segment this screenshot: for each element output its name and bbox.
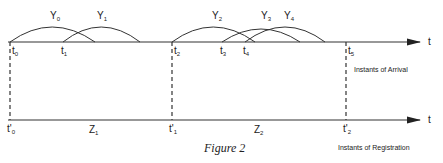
- tick-t0-prime: t'0: [7, 123, 16, 135]
- tick-t3: t3: [220, 45, 227, 57]
- tick-t1: t1: [61, 45, 68, 57]
- label-y2: Y2: [212, 10, 223, 22]
- arc-y1: [63, 27, 140, 42]
- label-y1: Y1: [97, 10, 108, 22]
- tick-t1-prime: t'1: [169, 123, 178, 135]
- arc-y0: [10, 27, 95, 42]
- interval-z2: Z2: [254, 124, 264, 136]
- tick-t0: t0: [12, 45, 19, 57]
- label-y0: Y0: [50, 10, 61, 22]
- arrival-axis-label: Instants of Arrival: [354, 66, 408, 73]
- tick-t2-prime: t'2: [343, 123, 352, 135]
- tick-t5: t5: [348, 45, 355, 57]
- interval-z1: Z1: [89, 124, 99, 136]
- tick-t4: t4: [243, 45, 250, 57]
- registration-axis-symbol: t: [428, 114, 431, 125]
- figure-caption: Figure 2: [203, 141, 245, 155]
- label-y3: Y3: [261, 10, 272, 22]
- tick-t2: t2: [174, 45, 181, 57]
- arc-y2: [172, 27, 255, 42]
- queue-timing-diagram: t t Y0 Y1 Y2 Y3 Y4 t0 t1 t2 t3 t4 t5 Ins…: [0, 0, 443, 163]
- registration-axis-label: Instants of Registration: [338, 144, 410, 152]
- label-y4: Y4: [284, 10, 295, 22]
- arrival-axis-symbol: t: [428, 36, 431, 47]
